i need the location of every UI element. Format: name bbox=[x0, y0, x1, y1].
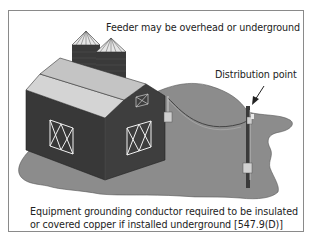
feeder-label: Feeder may be overhead or underground bbox=[106, 22, 300, 33]
grounding-note-line1: Equipment grounding conductor required t… bbox=[30, 205, 300, 218]
distribution-point-label: Distribution point bbox=[215, 69, 297, 80]
pole-meter bbox=[243, 163, 252, 173]
grounding-note-line2: or covered copper if installed undergrou… bbox=[30, 218, 300, 231]
arrow-icon bbox=[252, 86, 264, 105]
grounding-note: Equipment grounding conductor required t… bbox=[30, 205, 300, 231]
